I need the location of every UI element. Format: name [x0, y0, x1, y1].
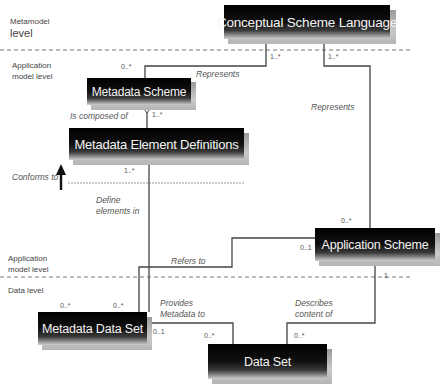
role-refers-to: Refers to: [171, 256, 206, 267]
data-level-label: Data level: [8, 285, 44, 296]
role-describes-line1: Describes: [295, 298, 333, 309]
class-application-scheme[interactable]: Application Scheme: [315, 228, 440, 266]
mult-ds-left: 0..*: [204, 332, 215, 339]
role-is-composed-of: Is composed of: [70, 111, 128, 122]
mult-as-bottom: 1: [384, 272, 388, 279]
role-conforms-to: Conforms to: [12, 172, 58, 183]
class-metadata-data-set[interactable]: Metadata Data Set: [38, 312, 152, 350]
mult-ms-top: 0..*: [121, 63, 132, 70]
application-level-top-line2: model level: [12, 71, 52, 82]
mult-ds-right: 0..*: [294, 332, 305, 339]
metamodel-level-line2: level: [10, 27, 50, 40]
represents-right-connector: [324, 42, 370, 228]
application-level-bottom-line2: model level: [8, 264, 48, 275]
role-define-line1: Define: [96, 195, 139, 206]
mult-mds-right-top: 0..*: [113, 302, 124, 309]
class-data-set[interactable]: Data Set: [208, 344, 332, 384]
class-label: Metadata Data Set: [38, 312, 147, 345]
role-represents-right: Represents: [311, 102, 354, 113]
mult-mds-right: 0..1: [153, 328, 165, 335]
metamodel-level-label: Metamodel level: [10, 16, 50, 40]
role-provides-line1: Provides: [160, 298, 205, 309]
mult-ms-bottom: 1..*: [152, 111, 163, 118]
role-describes-line2: content of: [295, 309, 333, 320]
application-model-level-label-top: Application model level: [12, 60, 52, 82]
role-represents-left: Represents: [196, 69, 239, 80]
mult-csl-left: 1..*: [270, 53, 281, 60]
application-level-bottom-line1: Application: [8, 253, 48, 264]
class-metadata-element-definitions[interactable]: Metadata Element Definitions: [69, 128, 249, 165]
role-provides-metadata-to: Provides Metadata to: [160, 298, 205, 320]
class-label: Data Set: [208, 344, 327, 379]
mult-csl-right: 1..*: [328, 53, 339, 60]
class-label: Conceptual Scheme Language: [224, 5, 390, 39]
application-model-level-label-bottom: Application model level: [8, 253, 48, 275]
application-level-top-line1: Application: [12, 60, 52, 71]
class-label: Application Scheme: [315, 228, 435, 261]
class-conceptual-scheme-language[interactable]: Conceptual Scheme Language: [224, 5, 396, 44]
role-provides-line2: Metadata to: [160, 309, 205, 320]
class-label: Metadata Element Definitions: [69, 128, 244, 160]
class-label: Metadata Scheme: [87, 78, 191, 105]
role-describes-content-of: Describes content of: [295, 298, 333, 320]
mult-mds-left: 0..*: [60, 302, 71, 309]
mult-as-top: 0..*: [341, 217, 352, 224]
role-define-line2: elements in: [96, 206, 139, 217]
mult-as-left: 0..1: [300, 244, 312, 251]
metamodel-level-line1: Metamodel: [10, 16, 50, 27]
mult-med-bottom: 1..*: [124, 167, 135, 174]
role-define-elements-in: Define elements in: [96, 195, 139, 217]
class-metadata-scheme[interactable]: Metadata Scheme: [87, 78, 196, 110]
